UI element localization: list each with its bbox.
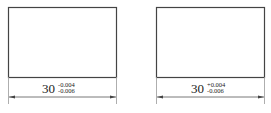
lower-tolerance: -0.006 <box>58 88 75 94</box>
figure-left: 30 -0.004 -0.006 <box>0 0 135 113</box>
arrowhead-right-icon <box>110 96 116 99</box>
arrowhead-left-icon <box>157 96 163 99</box>
drawing-left <box>0 0 135 113</box>
nominal-value: 30 <box>191 82 204 95</box>
part-rectangle <box>157 8 265 78</box>
nominal-value: 30 <box>42 82 55 95</box>
tolerance: -0.004 -0.006 <box>58 82 75 94</box>
arrowhead-left-icon <box>9 96 15 99</box>
figure-right: 30 +0.004 -0.006 <box>135 0 271 113</box>
tolerance: +0.004 -0.006 <box>207 82 225 94</box>
drawing-right <box>135 0 271 113</box>
arrowhead-right-icon <box>258 96 264 99</box>
lower-tolerance: -0.006 <box>207 88 225 94</box>
part-rectangle <box>9 8 117 78</box>
